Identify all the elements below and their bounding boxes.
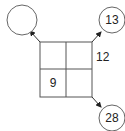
arrow-top-left	[30, 31, 40, 42]
circle-bottom-right-value: 28	[105, 111, 119, 125]
grid-side-label: 12	[96, 50, 110, 64]
diagram-canvas: 9 12 13 28	[0, 0, 125, 131]
arrow-top-right	[92, 32, 101, 42]
circle-top-right: 13	[99, 7, 125, 33]
arrow-bottom-right	[92, 97, 101, 107]
grid: 9 12	[40, 42, 110, 97]
cell-bottom-left-value: 9	[50, 76, 57, 90]
circle-top-left	[7, 5, 37, 35]
circle-top-right-value: 13	[105, 13, 119, 27]
circle-bottom-right: 28	[99, 105, 125, 131]
